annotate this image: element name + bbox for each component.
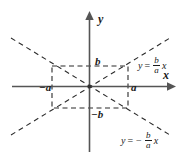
equation-negative-numerator: b xyxy=(145,131,152,140)
x-axis-arrowhead xyxy=(167,82,176,90)
diagram-canvas xyxy=(0,0,188,156)
equation-negative-sign: − xyxy=(136,136,142,146)
equation-positive-equals: = xyxy=(144,61,150,71)
equation-negative-lhs: y xyxy=(121,136,125,146)
equation-positive-fraction: b a xyxy=(153,56,160,75)
y-axis-arrowhead xyxy=(85,11,93,20)
equation-negative-equals: = xyxy=(127,136,133,146)
origin-point xyxy=(87,84,91,88)
equation-negative-denominator: a xyxy=(145,141,152,150)
y-negative-tick-label: −b xyxy=(91,109,103,120)
equation-positive-lhs: y xyxy=(138,61,142,71)
x-positive-tick-label: a xyxy=(131,82,137,93)
y-axis-label: y xyxy=(98,13,103,25)
y-positive-tick-label: b xyxy=(95,56,101,67)
equation-positive-slope: y = b a x xyxy=(138,56,167,75)
equation-positive-denominator: a xyxy=(153,66,160,75)
equation-negative-variable: x xyxy=(154,136,158,146)
equation-negative-slope: y = − b a x xyxy=(121,131,158,150)
x-negative-tick-label: −a xyxy=(39,82,51,93)
equation-positive-variable: x xyxy=(162,61,166,71)
hyperbola-asymptote-diagram: y x −a a b −b y = b a x y = − b a x xyxy=(0,0,188,156)
equation-negative-fraction: b a xyxy=(145,131,152,150)
equation-positive-numerator: b xyxy=(153,56,160,65)
